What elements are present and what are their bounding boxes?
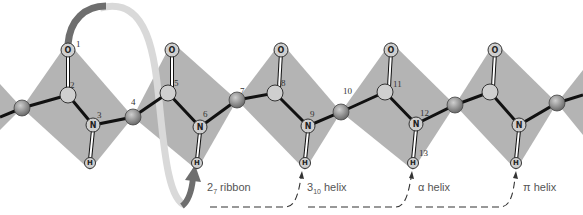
svg-text:O: O (169, 46, 176, 55)
label-pi-helix: π helix (523, 181, 557, 193)
svg-text:11: 11 (393, 79, 402, 89)
svg-text:O: O (388, 46, 395, 55)
svg-text:H: H (513, 159, 519, 167)
peptide-diagram: O O O O O N N N N N H H H H H 1 2 3 4 5 … (0, 0, 583, 215)
svg-text:7: 7 (240, 86, 245, 96)
arrowhead-icon (299, 171, 304, 179)
ribbon-loop-front (68, 6, 106, 44)
svg-text:2: 2 (70, 80, 75, 90)
label-27-ribbon: 27 ribbon (207, 181, 251, 195)
svg-text:N: N (516, 121, 523, 130)
hbond-arrowheads (299, 171, 518, 179)
svg-text:3: 3 (97, 110, 102, 120)
svg-text:8: 8 (281, 78, 286, 88)
svg-text:12: 12 (420, 108, 429, 118)
svg-text:H: H (87, 159, 93, 167)
label-310-helix: 310 helix (307, 181, 347, 195)
svg-text:13: 13 (419, 148, 429, 158)
svg-text:H: H (410, 159, 416, 167)
svg-text:O: O (278, 46, 285, 55)
svg-text:H: H (302, 159, 308, 167)
arrowhead-icon (513, 171, 518, 179)
arrowhead-icon (409, 171, 414, 179)
ribbon-arrow-tail (182, 178, 193, 206)
svg-text:9: 9 (310, 109, 315, 119)
svg-text:4: 4 (131, 97, 136, 107)
svg-text:10: 10 (343, 86, 353, 96)
svg-text:H: H (194, 159, 200, 167)
hbond-arrows (210, 178, 515, 207)
svg-text:N: N (197, 123, 204, 132)
svg-text:N: N (90, 121, 97, 130)
svg-text:5: 5 (174, 78, 179, 88)
svg-text:N: N (413, 120, 420, 129)
svg-text:O: O (65, 46, 72, 55)
peptide-plane-5 (455, 42, 557, 170)
svg-text:O: O (492, 46, 499, 55)
svg-text:N: N (305, 122, 312, 131)
svg-text:1: 1 (76, 39, 81, 49)
label-alpha-helix: α helix (418, 181, 451, 193)
svg-text:6: 6 (203, 109, 208, 119)
